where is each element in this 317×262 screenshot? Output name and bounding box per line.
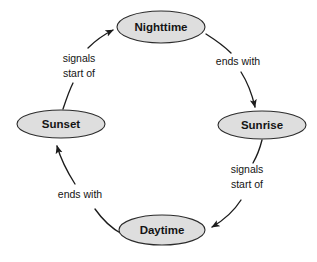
node-sunrise[interactable]: Sunrise bbox=[218, 111, 306, 139]
edge-path-daytime-to-sunset-2 bbox=[57, 146, 75, 184]
node-label-sunrise: Sunrise bbox=[241, 119, 283, 131]
edge-path-daytime-to-sunset bbox=[95, 209, 122, 234]
edge-nighttime-to-sunrise: ends with bbox=[206, 34, 260, 107]
edge-label-nighttime-to-sunrise: ends with bbox=[216, 55, 261, 67]
edge-path-nighttime-to-sunrise-2 bbox=[241, 72, 255, 107]
diagram-canvas: ends with signals start of ends with sig… bbox=[0, 0, 317, 262]
node-label-daytime: Daytime bbox=[140, 224, 185, 236]
edge-label-sunrise-to-daytime-line2: start of bbox=[231, 178, 263, 190]
edge-path-sunrise-to-daytime-2 bbox=[212, 200, 241, 227]
edge-label-sunset-to-nighttime-line1: signals bbox=[63, 52, 96, 64]
edge-label-sunset-to-nighttime-line2: start of bbox=[63, 67, 95, 79]
edge-path-sunset-to-nighttime-2 bbox=[88, 30, 113, 48]
edge-label-daytime-to-sunset: ends with bbox=[58, 188, 103, 200]
node-label-sunset: Sunset bbox=[42, 118, 81, 130]
edge-label-sunrise-to-daytime-line1: signals bbox=[231, 163, 264, 175]
node-label-nighttime: Nighttime bbox=[134, 21, 187, 33]
cycle-diagram: ends with signals start of ends with sig… bbox=[0, 0, 317, 262]
node-nighttime[interactable]: Nighttime bbox=[117, 11, 205, 43]
node-sunset[interactable]: Sunset bbox=[17, 110, 105, 138]
edge-sunrise-to-daytime: signals start of bbox=[212, 140, 263, 227]
edge-path-sunset-to-nighttime bbox=[63, 83, 73, 109]
edge-path-nighttime-to-sunrise bbox=[206, 34, 231, 53]
edge-path-sunrise-to-daytime bbox=[253, 140, 262, 163]
node-daytime[interactable]: Daytime bbox=[119, 215, 205, 245]
edge-daytime-to-sunset: ends with bbox=[57, 146, 122, 234]
edge-sunset-to-nighttime: signals start of bbox=[63, 30, 113, 109]
